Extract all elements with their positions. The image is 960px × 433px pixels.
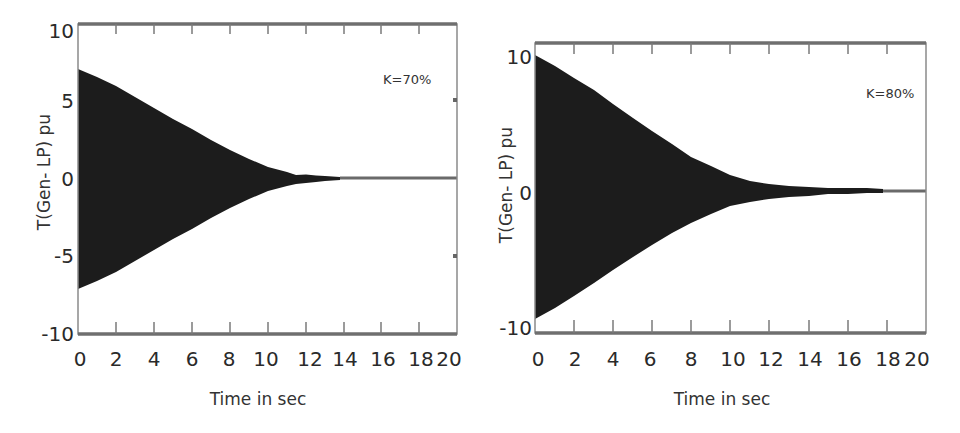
- k-annotation: K=80%: [866, 86, 914, 101]
- x-tick-label: 0: [74, 347, 87, 371]
- x-tick-label: 10: [253, 347, 278, 371]
- x-tick-label: 14: [797, 347, 822, 371]
- right-axis-marker: [453, 254, 457, 258]
- x-tick-label: 2: [569, 347, 582, 371]
- chart-k80: 10 0 -10 0 2 4 6 8 10 12 14 16 18 20 Tim…: [480, 0, 960, 433]
- y-tick-label: -10: [499, 316, 532, 340]
- y-tick-label: 5: [61, 89, 74, 113]
- y-tick-label: -10: [41, 322, 74, 346]
- x-axis-title: Time in sec: [673, 389, 771, 409]
- chart-k70: 10 5 0 -5 -10 0 2 4 6 8 10 12 14 16 18 2…: [0, 0, 480, 433]
- x-tick-label: 8: [223, 347, 236, 371]
- x-tick-label: 16: [370, 347, 395, 371]
- x-tick-label: 18: [875, 347, 900, 371]
- x-tick-label: 18: [408, 347, 433, 371]
- x-tick-label: 20: [436, 347, 461, 371]
- x-tick-label: 0: [532, 347, 545, 371]
- bottom-ticks: [574, 320, 887, 333]
- k-annotation: K=70%: [383, 72, 431, 87]
- x-tick-label: 6: [644, 347, 657, 371]
- y-axis-title: T(Gen- LP) pu: [496, 127, 516, 244]
- y-tick-label: 10: [49, 19, 74, 43]
- x-tick-label: 16: [836, 347, 861, 371]
- x-tick-label: 2: [110, 347, 123, 371]
- y-tick-label: 0: [61, 167, 74, 191]
- steady-state-line: [883, 190, 926, 193]
- bottom-ticks: [116, 322, 419, 334]
- oscillation-envelope: [78, 69, 340, 289]
- y-tick-label: 10: [507, 45, 532, 69]
- x-tick-labels: 0 2 4 6 8 10 12 14 16 18 20: [74, 347, 462, 371]
- x-tick-label: 12: [758, 347, 783, 371]
- y-tick-label: -5: [54, 244, 74, 268]
- y-axis-title: T(Gen- LP) pu: [34, 114, 54, 231]
- y-tick-label: 0: [519, 181, 532, 205]
- plot-area: [78, 24, 457, 334]
- x-axis-title: Time in sec: [209, 389, 307, 409]
- chart-k80-svg: 10 0 -10 0 2 4 6 8 10 12 14 16 18 20 Tim…: [480, 0, 960, 433]
- x-tick-label: 6: [186, 347, 199, 371]
- x-tick-label: 4: [148, 347, 161, 371]
- x-tick-label: 12: [297, 347, 322, 371]
- x-tick-label: 8: [685, 347, 698, 371]
- x-tick-label: 20: [904, 347, 929, 371]
- right-axis-marker: [453, 98, 457, 102]
- oscillation-envelope: [535, 55, 883, 319]
- x-tick-label: 10: [720, 347, 745, 371]
- x-tick-label: 14: [332, 347, 357, 371]
- chart-k70-svg: 10 5 0 -5 -10 0 2 4 6 8 10 12 14 16 18 2…: [0, 0, 480, 433]
- x-tick-labels: 0 2 4 6 8 10 12 14 16 18 20: [532, 347, 930, 371]
- x-tick-label: 4: [607, 347, 620, 371]
- steady-state-line: [340, 177, 457, 180]
